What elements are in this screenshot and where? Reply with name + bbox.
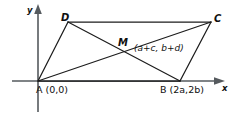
vertex-label-M: M	[118, 38, 128, 48]
vertex-label-C: C	[214, 14, 221, 24]
figure-canvas: D C M (a+c, b+d) A (0,0) B (2a,2b) x y	[0, 0, 233, 122]
parallelogram-diagram	[0, 0, 233, 122]
midpoint-coordinate-label: (a+c, b+d)	[134, 44, 184, 53]
x-axis-label: x	[222, 84, 227, 93]
vertex-label-B: B (2a,2b)	[160, 85, 204, 95]
y-axis-arrow-icon	[34, 4, 42, 14]
y-axis-label: y	[27, 6, 33, 15]
vertex-label-A: A (0,0)	[36, 85, 68, 95]
vertex-label-D: D	[61, 13, 69, 23]
